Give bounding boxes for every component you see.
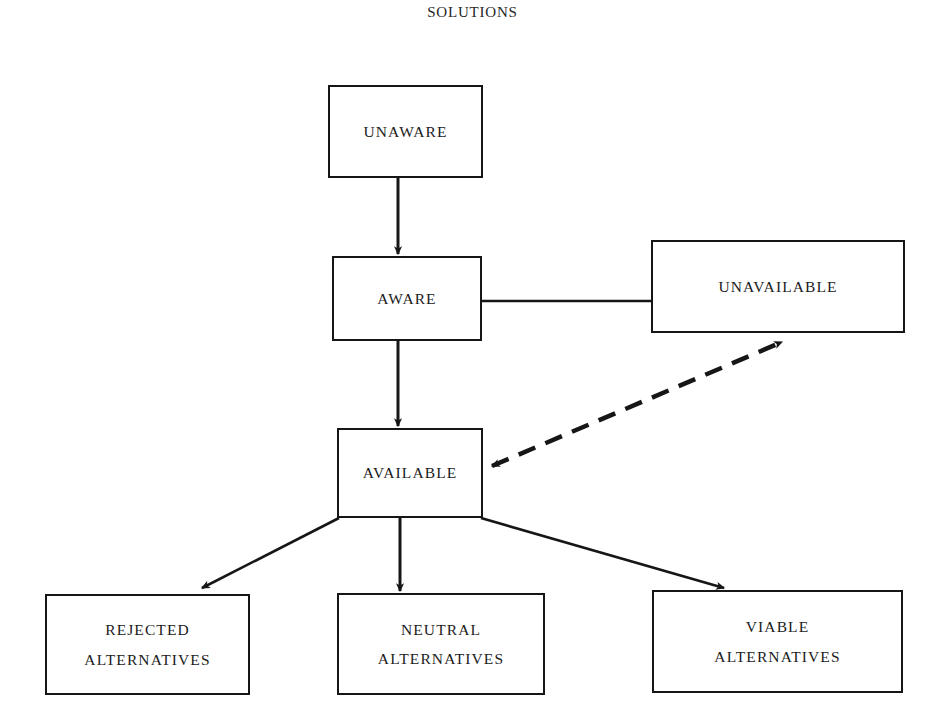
node-unaware[interactable]: UNAWARE [328, 85, 483, 178]
node-unavailable-label: UNAVAILABLE [718, 272, 837, 301]
edge-available-to-rejected [202, 518, 339, 588]
node-unaware-label: UNAWARE [364, 117, 448, 146]
node-neutral-alternatives[interactable]: NEUTRAL ALTERNATIVES [337, 593, 545, 695]
node-rejected-alternatives[interactable]: REJECTED ALTERNATIVES [45, 594, 250, 695]
node-available[interactable]: AVAILABLE [337, 428, 483, 518]
node-unavailable[interactable]: UNAVAILABLE [651, 240, 905, 333]
node-available-label: AVAILABLE [363, 458, 458, 487]
node-rejected-label-line2: ALTERNATIVES [84, 645, 210, 674]
edge-available-to-unavailable [492, 342, 782, 466]
diagram-canvas: SOLUTIONS UNAWARE AWARE UNA [0, 0, 945, 707]
node-rejected-label-line1: REJECTED [105, 615, 190, 644]
node-aware[interactable]: AWARE [332, 256, 482, 341]
node-neutral-label-line1: NEUTRAL [401, 615, 481, 644]
node-viable-label-line2: ALTERNATIVES [714, 642, 840, 671]
node-viable-alternatives[interactable]: VIABLE ALTERNATIVES [652, 590, 903, 693]
node-viable-label-line1: VIABLE [746, 612, 809, 641]
node-aware-label: AWARE [377, 284, 436, 313]
edge-available-to-viable [481, 518, 724, 588]
node-neutral-label-line2: ALTERNATIVES [378, 644, 504, 673]
